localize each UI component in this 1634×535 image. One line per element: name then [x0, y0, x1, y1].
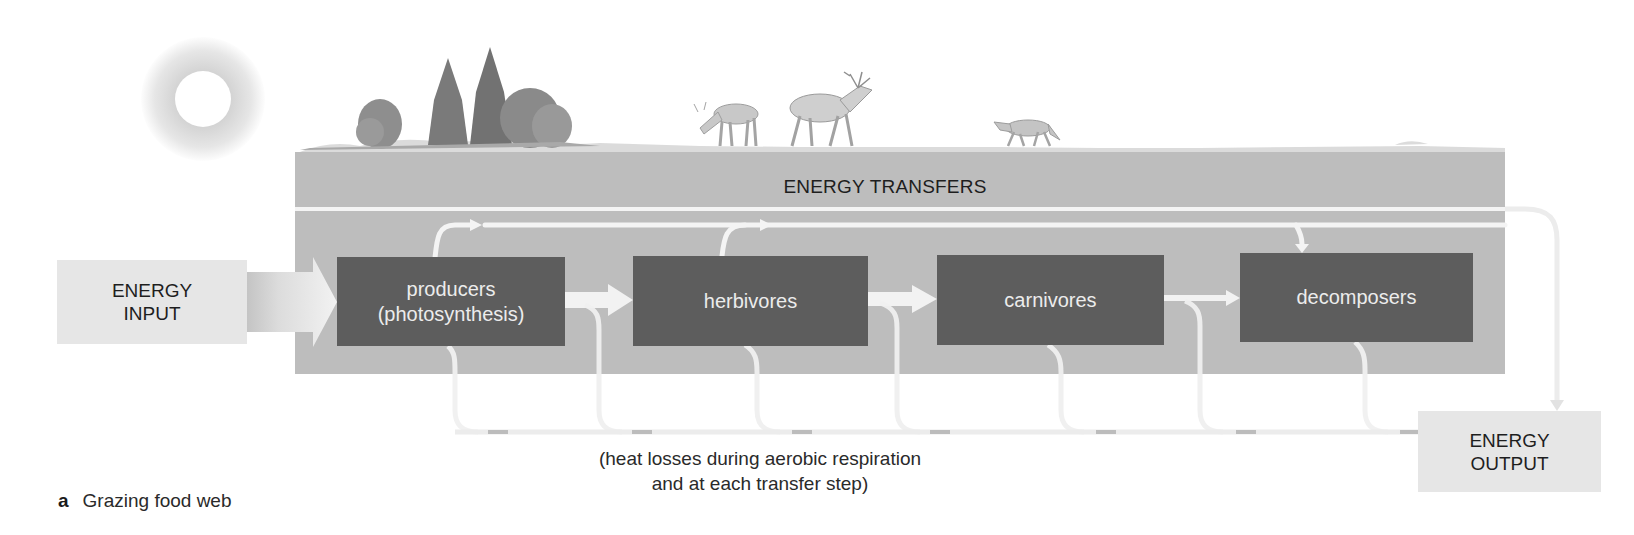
energy-output-line1: ENERGY [1469, 429, 1549, 452]
energy-input-line1: ENERGY [112, 279, 192, 302]
node-herbivores: herbivores [633, 256, 868, 346]
heat-loss-caption-line2: and at each transfer step) [560, 471, 960, 496]
heat-loss-caption-line1: (heat losses during aerobic respiration [560, 446, 960, 471]
node-carnivores-label: carnivores [1004, 288, 1096, 313]
node-herbivores-label: herbivores [704, 289, 797, 314]
figure-title: Grazing food web [83, 490, 232, 511]
energy-output-line2: OUTPUT [1470, 452, 1548, 475]
node-producers-label: producers [407, 277, 496, 302]
heat-loss-caption: (heat losses during aerobic respiration … [560, 446, 960, 496]
figure-letter: a [58, 490, 69, 511]
figure-label: aGrazing food web [58, 490, 232, 512]
node-decomposers: decomposers [1240, 253, 1473, 342]
energy-input-box: ENERGY INPUT [57, 260, 247, 344]
node-carnivores: carnivores [937, 255, 1164, 345]
node-producers: producers (photosynthesis) [337, 257, 565, 346]
node-producers-sublabel: (photosynthesis) [378, 302, 525, 327]
energy-output-box: ENERGY OUTPUT [1418, 411, 1601, 492]
energy-input-line2: INPUT [124, 302, 181, 325]
input-arrow [247, 257, 337, 347]
node-decomposers-label: decomposers [1296, 285, 1416, 310]
